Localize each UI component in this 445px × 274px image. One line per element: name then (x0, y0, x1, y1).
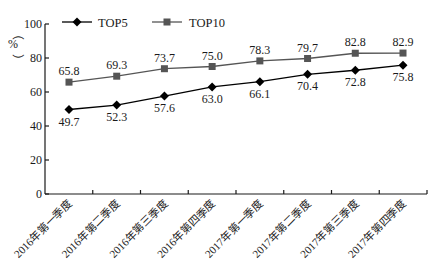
diamond-marker-icon (399, 61, 408, 70)
data-label: 82.9 (393, 35, 414, 49)
data-label: 70.4 (297, 79, 318, 93)
data-label: 75.0 (202, 49, 223, 63)
line-chart: 020406080100 2016年第一季度2016年第二季度2016年第三季度… (0, 0, 445, 274)
y-tick-label: 20 (30, 153, 42, 167)
square-marker-icon (256, 57, 263, 64)
data-label: 49.7 (59, 115, 80, 129)
square-marker-icon (113, 73, 120, 80)
square-marker-icon (400, 50, 407, 57)
data-label: 52.3 (106, 110, 127, 124)
diamond-marker-icon (303, 70, 312, 79)
data-label: 57.6 (154, 101, 175, 115)
y-tick-label: 80 (30, 51, 42, 65)
x-ticks: 2016年第一季度2016年第二季度2016年第三季度2016年第四季度2017… (11, 190, 427, 260)
series-group: 49.752.357.663.066.170.472.875.865.869.3… (59, 35, 414, 128)
data-label: 79.7 (297, 41, 318, 55)
diamond-marker-icon (65, 105, 74, 114)
data-label: 75.8 (393, 70, 414, 84)
y-tick-label: 60 (30, 85, 42, 99)
y-tick-label: 0 (36, 187, 42, 201)
legend-item-top10[interactable]: TOP10 (152, 16, 225, 30)
square-marker-icon (164, 19, 171, 26)
diamond-marker-icon (73, 18, 82, 27)
y-tick-label: 100 (24, 17, 42, 31)
y-unit-label: （ % ） (8, 28, 24, 66)
square-marker-icon (209, 63, 216, 70)
diamond-marker-icon (160, 92, 169, 101)
axes (45, 24, 427, 194)
legend-item-top5[interactable]: TOP5 (62, 16, 128, 30)
square-marker-icon (352, 50, 359, 57)
diamond-marker-icon (255, 77, 264, 86)
y-tick-label: 40 (30, 119, 42, 133)
data-label: 78.3 (249, 43, 270, 57)
data-label: 72.8 (345, 75, 366, 89)
square-marker-icon (161, 65, 168, 72)
data-label: 65.8 (59, 64, 80, 78)
data-label: 63.0 (202, 92, 223, 106)
unit-percent: % (8, 37, 18, 51)
unit-paren-close: ） (10, 54, 24, 66)
data-label: 73.7 (154, 51, 175, 65)
data-label: 82.8 (345, 35, 366, 49)
square-marker-icon (304, 55, 311, 62)
data-label: 66.1 (249, 87, 270, 101)
legend-label-top5: TOP5 (98, 16, 128, 30)
diamond-marker-icon (112, 101, 121, 110)
legend: TOP5 TOP10 (62, 16, 225, 30)
legend-label-top10: TOP10 (189, 16, 225, 30)
diamond-marker-icon (208, 82, 217, 91)
square-marker-icon (66, 79, 73, 86)
data-label: 69.3 (106, 58, 127, 72)
diamond-marker-icon (351, 66, 360, 75)
